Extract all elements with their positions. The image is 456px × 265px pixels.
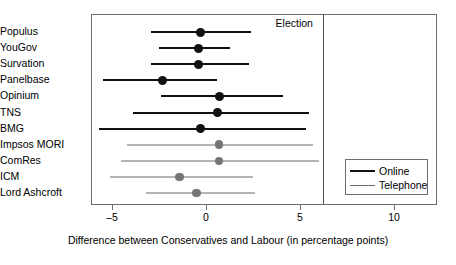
x-axis: –50510: [0, 0, 456, 265]
legend-item-telephone[interactable]: Telephone: [350, 178, 427, 192]
x-axis-tick-label: –5: [92, 211, 132, 223]
legend-item-online[interactable]: Online: [350, 164, 409, 178]
x-axis-tick-mark: [300, 205, 301, 210]
x-axis-tick-label: 5: [280, 211, 320, 223]
x-axis-title: Difference between Conservatives and Lab…: [0, 234, 456, 246]
x-axis-tick-mark: [394, 205, 395, 210]
legend-label-telephone: Telephone: [379, 179, 427, 191]
legend-swatch-online-icon: [350, 170, 375, 172]
x-axis-tick-label: 10: [374, 211, 414, 223]
legend: Online Telephone: [345, 159, 428, 195]
legend-label-online: Online: [379, 165, 409, 177]
x-axis-tick-mark: [206, 205, 207, 210]
legend-swatch-telephone-icon: [350, 185, 375, 186]
x-axis-tick-mark: [112, 205, 113, 210]
x-axis-tick-label: 0: [186, 211, 226, 223]
poll-difference-chart: PopulusYouGovSurvationPanelbaseOpiniumTN…: [0, 0, 456, 265]
